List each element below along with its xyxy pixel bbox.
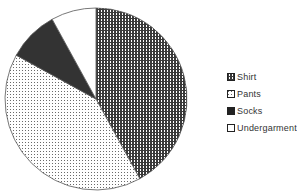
legend-label: Socks <box>237 106 263 116</box>
white-swatch-icon <box>227 124 235 132</box>
solid-dark-swatch-icon <box>227 107 235 115</box>
checker-swatch-icon <box>227 73 235 81</box>
legend-item-socks: Socks <box>227 102 297 119</box>
legend-item-shirt: Shirt <box>227 68 297 85</box>
legend-label: Shirt <box>237 72 257 82</box>
legend-label: Undergarments <box>237 123 297 133</box>
chart-legend: Shirt Pants Socks Undergarments <box>227 68 297 136</box>
pie-slices <box>5 8 187 190</box>
dotted-swatch-icon <box>227 90 235 98</box>
legend-item-pants: Pants <box>227 85 297 102</box>
legend-item-undergarments: Undergarments <box>227 119 297 136</box>
legend-label: Pants <box>237 89 261 99</box>
